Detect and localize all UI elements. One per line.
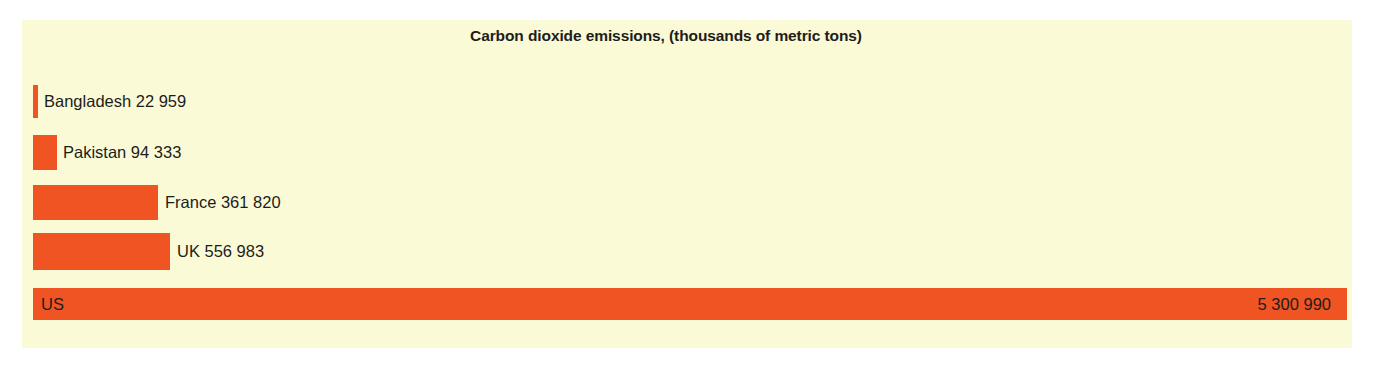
bar-value-us: 5 300 990: [1258, 296, 1331, 313]
chart-title: Carbon dioxide emissions, (thousands of …: [266, 27, 1066, 45]
bar-label-us: US: [41, 296, 64, 313]
bar-us-fill: [33, 288, 1347, 320]
bar-label-france: France 361 820: [165, 194, 281, 211]
bar-bangladesh[interactable]: [33, 85, 38, 118]
bar-label-uk: UK 556 983: [177, 243, 264, 260]
bar-label-pakistan: Pakistan 94 333: [63, 144, 181, 161]
bar-label-bangladesh: Bangladesh 22 959: [44, 93, 186, 110]
bar-uk[interactable]: [33, 233, 170, 270]
bar-france[interactable]: [33, 185, 158, 220]
chart-figure: Carbon dioxide emissions, (thousands of …: [0, 0, 1375, 369]
bar-pakistan[interactable]: [33, 135, 57, 170]
bar-us[interactable]: US 5 300 990: [33, 288, 1347, 320]
